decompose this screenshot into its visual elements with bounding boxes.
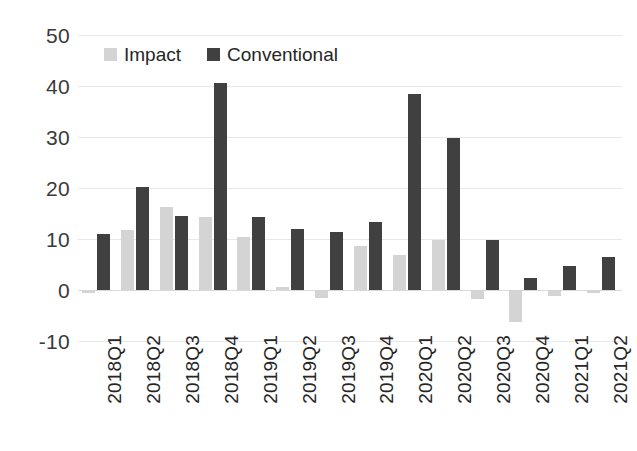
y-tick-label: 10 xyxy=(8,229,70,250)
bar-conventional-2021Q1 xyxy=(563,266,576,290)
legend-label-impact: Impact xyxy=(124,45,181,64)
chart-legend: Impact Conventional xyxy=(104,45,338,64)
bar-impact-2020Q4 xyxy=(509,290,522,322)
y-tick-label: 0 xyxy=(8,280,70,301)
bar-impact-2018Q2 xyxy=(121,230,134,290)
bar-impact-2019Q2 xyxy=(276,287,289,290)
bar-conventional-2018Q4 xyxy=(214,83,227,290)
bar-conventional-2020Q4 xyxy=(524,278,537,290)
bar-impact-2019Q4 xyxy=(354,246,367,290)
bar-conventional-2020Q2 xyxy=(447,138,460,290)
bar-group xyxy=(195,35,234,341)
x-tick-label: 2021Q2 xyxy=(611,335,630,445)
x-tick-label: 2019Q1 xyxy=(261,335,280,445)
bar-group xyxy=(544,35,583,341)
bar-group xyxy=(467,35,506,341)
x-tick-label: 2020Q3 xyxy=(494,335,513,445)
bar-impact-2020Q2 xyxy=(432,240,445,290)
bar-conventional-2018Q1 xyxy=(97,234,110,290)
bar-group xyxy=(78,35,117,341)
x-tick-label: 2019Q2 xyxy=(300,335,319,445)
legend-entry-conventional: Conventional xyxy=(207,45,338,64)
x-axis: 2018Q12018Q22018Q32018Q42019Q12019Q22019… xyxy=(78,341,622,451)
plot-area xyxy=(78,35,622,341)
bar-group xyxy=(272,35,311,341)
bar-impact-2021Q2 xyxy=(587,290,600,293)
legend-swatch-impact-icon xyxy=(104,48,117,61)
y-tick-label: 50 xyxy=(8,25,70,46)
y-axis: 50403020100-10 xyxy=(0,0,70,451)
bar-group xyxy=(233,35,272,341)
bar-conventional-2019Q4 xyxy=(369,222,382,290)
bar-impact-2018Q4 xyxy=(199,217,212,290)
x-tick-label: 2018Q2 xyxy=(144,335,163,445)
bar-group xyxy=(583,35,622,341)
bar-group xyxy=(311,35,350,341)
bar-impact-2020Q1 xyxy=(393,255,406,290)
bar-chart: 50403020100-10 Impact Conventional 2018Q… xyxy=(0,0,637,451)
x-tick-label: 2018Q3 xyxy=(183,335,202,445)
bar-impact-2021Q1 xyxy=(548,290,561,296)
bar-impact-2018Q1 xyxy=(82,290,95,293)
bar-impact-2019Q3 xyxy=(315,290,328,298)
bar-group xyxy=(117,35,156,341)
bar-conventional-2018Q2 xyxy=(136,187,149,290)
y-tick-label: -10 xyxy=(8,331,70,352)
y-tick-label: 30 xyxy=(8,127,70,148)
bar-group xyxy=(428,35,467,341)
legend-swatch-conventional-icon xyxy=(207,48,220,61)
bar-conventional-2020Q3 xyxy=(486,240,499,290)
bar-impact-2020Q3 xyxy=(471,290,484,299)
legend-label-conventional: Conventional xyxy=(227,45,338,64)
bar-conventional-2019Q1 xyxy=(252,217,265,290)
bar-group xyxy=(350,35,389,341)
bar-group xyxy=(156,35,195,341)
x-tick-label: 2019Q4 xyxy=(377,335,396,445)
x-tick-label: 2018Q1 xyxy=(105,335,124,445)
x-tick-label: 2019Q3 xyxy=(339,335,358,445)
bar-conventional-2020Q1 xyxy=(408,94,421,290)
bar-conventional-2018Q3 xyxy=(175,216,188,290)
x-tick-label: 2021Q1 xyxy=(572,335,591,445)
y-tick-label: 40 xyxy=(8,76,70,97)
x-tick-label: 2018Q4 xyxy=(222,335,241,445)
bar-group xyxy=(505,35,544,341)
bar-impact-2019Q1 xyxy=(237,237,250,290)
legend-entry-impact: Impact xyxy=(104,45,181,64)
x-tick-label: 2020Q2 xyxy=(455,335,474,445)
bar-conventional-2019Q3 xyxy=(330,232,343,290)
bars-layer xyxy=(78,35,622,341)
bar-group xyxy=(389,35,428,341)
bar-conventional-2019Q2 xyxy=(291,229,304,290)
bar-impact-2018Q3 xyxy=(160,207,173,290)
bar-conventional-2021Q2 xyxy=(602,257,615,290)
x-tick-label: 2020Q1 xyxy=(416,335,435,445)
x-tick-label: 2020Q4 xyxy=(533,335,552,445)
y-tick-label: 20 xyxy=(8,178,70,199)
